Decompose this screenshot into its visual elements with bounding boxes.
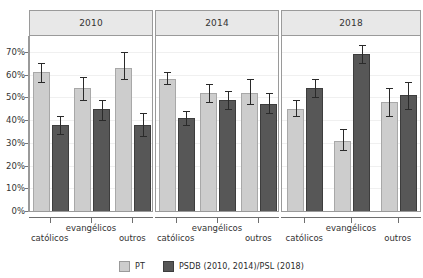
error-bar-cap-lower	[121, 79, 128, 80]
y-tick-mark	[25, 188, 28, 189]
error-bar-cap-lower	[206, 102, 213, 103]
chart-figure: 0%10%20%30%40%50%60%70% 201020142018 cat…	[0, 0, 423, 278]
bar-2010-evangélicos-pt	[74, 88, 91, 212]
error-bar-cap-upper	[121, 52, 128, 53]
error-bar-cap-upper	[57, 116, 64, 117]
error-bar-cap-lower	[359, 63, 366, 64]
x-tick-label-evangélicos: evangélicos	[326, 223, 377, 233]
y-tick-label: 60%	[0, 70, 25, 80]
y-tick-mark	[25, 75, 28, 76]
error-bar-cap-upper	[359, 45, 366, 46]
bar-2014-outros-pt	[241, 93, 258, 212]
panel-header-2010: 2010	[29, 10, 153, 36]
error-bar-line	[296, 100, 297, 116]
error-bar-cap-upper	[340, 129, 347, 130]
error-bar-cap-upper	[225, 91, 232, 92]
panel-header-2018: 2018	[281, 10, 421, 36]
bar-2018-católicos-psdb-psl	[306, 88, 323, 212]
bar-2018-católicos-pt	[287, 109, 304, 212]
error-bar-cap-lower	[57, 134, 64, 135]
x-tick-label-católicos: católicos	[286, 233, 323, 243]
x-tick-mark	[176, 217, 177, 223]
error-bar-line	[209, 84, 210, 102]
error-bar-line	[362, 45, 363, 63]
error-bar-cap-lower	[225, 109, 232, 110]
x-tick-label-evangélicos: evangélicos	[192, 223, 243, 233]
y-tick-mark	[25, 143, 28, 144]
y-tick-label: 70%	[0, 47, 25, 57]
error-bar-cap-lower	[140, 136, 147, 137]
bar-2014-evangélicos-pt	[200, 93, 217, 212]
y-tick-mark	[25, 166, 28, 167]
error-bar-line	[389, 88, 390, 115]
error-bar-cap-lower	[247, 104, 254, 105]
error-bar-cap-lower	[405, 109, 412, 110]
error-bar-cap-lower	[183, 125, 190, 126]
panel-header-2014: 2014	[155, 10, 279, 36]
bar-2010-outros-pt	[115, 68, 132, 212]
panel-2018	[281, 36, 421, 212]
error-bar-line	[83, 77, 84, 100]
error-bar-cap-upper	[99, 100, 106, 101]
y-tick-mark	[25, 211, 28, 212]
chart-legend: PT PSDB (2010, 2014)/PSL (2018)	[0, 261, 423, 272]
error-bar-cap-upper	[293, 100, 300, 101]
error-bar-line	[343, 129, 344, 149]
error-bar-line	[167, 72, 168, 83]
error-bar-line	[143, 113, 144, 136]
error-bar-cap-upper	[405, 82, 412, 83]
bar-2018-outros-psdb-psl	[400, 95, 417, 212]
gridline	[282, 75, 420, 76]
legend-swatch-psdb-psl	[163, 261, 174, 272]
error-bar-cap-lower	[164, 84, 171, 85]
error-bar-cap-lower	[386, 116, 393, 117]
legend-item-psdb-psl[interactable]: PSDB (2010, 2014)/PSL (2018)	[163, 261, 304, 272]
error-bar-cap-lower	[99, 120, 106, 121]
bar-2014-evangélicos-psdb-psl	[219, 100, 236, 212]
legend-swatch-pt	[119, 261, 130, 272]
x-tick-label-outros: outros	[384, 233, 411, 243]
error-bar-cap-upper	[312, 79, 319, 80]
y-tick-mark	[25, 97, 28, 98]
y-tick-label: 30%	[0, 138, 25, 148]
x-tick-mark	[50, 217, 51, 223]
error-bar-cap-upper	[183, 111, 190, 112]
error-bar-line	[250, 79, 251, 104]
error-bar-cap-lower	[293, 116, 300, 117]
bar-2014-outros-psdb-psl	[260, 104, 277, 212]
error-bar-cap-upper	[266, 93, 273, 94]
gridline	[156, 52, 278, 53]
x-tick-mark	[304, 217, 305, 223]
x-tick-label-evangélicos: evangélicos	[66, 223, 117, 233]
legend-label-pt: PT	[135, 262, 145, 271]
bar-2018-evangélicos-psdb-psl	[353, 54, 370, 212]
bar-2014-católicos-psdb-psl	[178, 118, 195, 212]
bar-2018-evangélicos-pt	[334, 141, 351, 212]
bar-2010-católicos-pt	[33, 72, 50, 212]
error-bar-line	[124, 52, 125, 79]
error-bar-cap-upper	[38, 63, 45, 64]
error-bar-cap-lower	[80, 100, 87, 101]
error-bar-cap-lower	[38, 82, 45, 83]
y-tick-label: 20%	[0, 161, 25, 171]
error-bar-cap-upper	[140, 113, 147, 114]
y-tick-mark	[25, 120, 28, 121]
error-bar-cap-lower	[266, 113, 273, 114]
y-tick-mark	[25, 52, 28, 53]
error-bar-line	[228, 91, 229, 109]
error-bar-line	[60, 116, 61, 134]
error-bar-cap-lower	[312, 97, 319, 98]
legend-item-pt[interactable]: PT	[119, 261, 145, 272]
error-bar-cap-upper	[164, 72, 171, 73]
error-bar-cap-lower	[340, 150, 347, 151]
y-tick-label: 0%	[0, 206, 25, 216]
error-bar-line	[269, 93, 270, 113]
error-bar-line	[41, 63, 42, 81]
bar-2018-outros-pt	[381, 102, 398, 212]
panel-2014	[155, 36, 279, 212]
error-bar-cap-upper	[80, 77, 87, 78]
bar-2010-outros-psdb-psl	[134, 125, 151, 212]
bar-2014-católicos-pt	[159, 79, 176, 212]
bar-2010-evangélicos-psdb-psl	[93, 109, 110, 212]
error-bar-cap-upper	[386, 88, 393, 89]
